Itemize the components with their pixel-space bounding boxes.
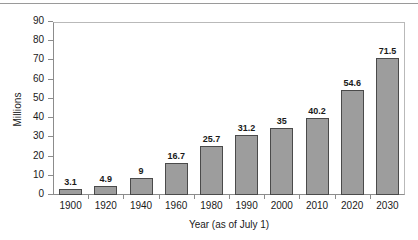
bar-value-label: 31.2	[227, 123, 267, 133]
x-tick-mark	[370, 195, 371, 199]
y-tick-label: 80	[0, 34, 44, 46]
x-tick-mark	[299, 195, 300, 199]
y-tick-label: 70	[0, 53, 44, 65]
bar	[200, 146, 223, 195]
x-tick-mark	[194, 195, 195, 199]
bar-value-label: 16.7	[156, 151, 196, 161]
y-tick-label: 90	[0, 15, 44, 27]
x-tick-mark	[264, 195, 265, 199]
y-tick-mark	[48, 156, 53, 157]
bar-value-label: 71.5	[367, 46, 407, 56]
y-tick-mark	[48, 79, 53, 80]
bar-value-label: 25.7	[191, 134, 231, 144]
bar	[235, 135, 258, 195]
bar-chart-figure: Millions 0102030405060708090 19001920194…	[0, 0, 418, 240]
y-tick-label: 0	[0, 188, 44, 200]
bar	[94, 186, 117, 195]
y-tick-mark	[48, 175, 53, 176]
bar-value-label: 40.2	[297, 106, 337, 116]
bar-value-label: 9	[121, 166, 161, 176]
y-tick-label: 60	[0, 73, 44, 85]
bar	[59, 189, 82, 195]
y-tick-label: 20	[0, 150, 44, 162]
x-axis-title: Year (as of July 1)	[53, 219, 405, 230]
y-tick-mark	[48, 98, 53, 99]
y-tick-mark	[48, 21, 53, 22]
bar	[270, 128, 293, 195]
bar-value-label: 3.1	[51, 177, 91, 187]
x-tick-mark	[88, 195, 89, 199]
x-tick-label: 2030	[365, 200, 409, 212]
bar-value-label: 35	[262, 116, 302, 126]
y-tick-label: 40	[0, 111, 44, 123]
bar	[376, 58, 399, 195]
bar	[341, 90, 364, 195]
x-tick-mark	[159, 195, 160, 199]
x-tick-mark	[229, 195, 230, 199]
y-tick-mark	[48, 136, 53, 137]
bar-value-label: 54.6	[332, 78, 372, 88]
bar	[165, 163, 188, 195]
top-divider-rule	[0, 3, 418, 4]
x-tick-mark	[123, 195, 124, 199]
y-tick-mark	[48, 194, 53, 195]
y-tick-label: 10	[0, 169, 44, 181]
y-tick-mark	[48, 40, 53, 41]
bar	[130, 178, 153, 195]
y-tick-label: 50	[0, 92, 44, 104]
y-tick-label: 30	[0, 130, 44, 142]
y-tick-mark	[48, 59, 53, 60]
x-tick-mark	[335, 195, 336, 199]
bar-value-label: 4.9	[86, 174, 126, 184]
bar	[306, 118, 329, 195]
y-tick-mark	[48, 117, 53, 118]
